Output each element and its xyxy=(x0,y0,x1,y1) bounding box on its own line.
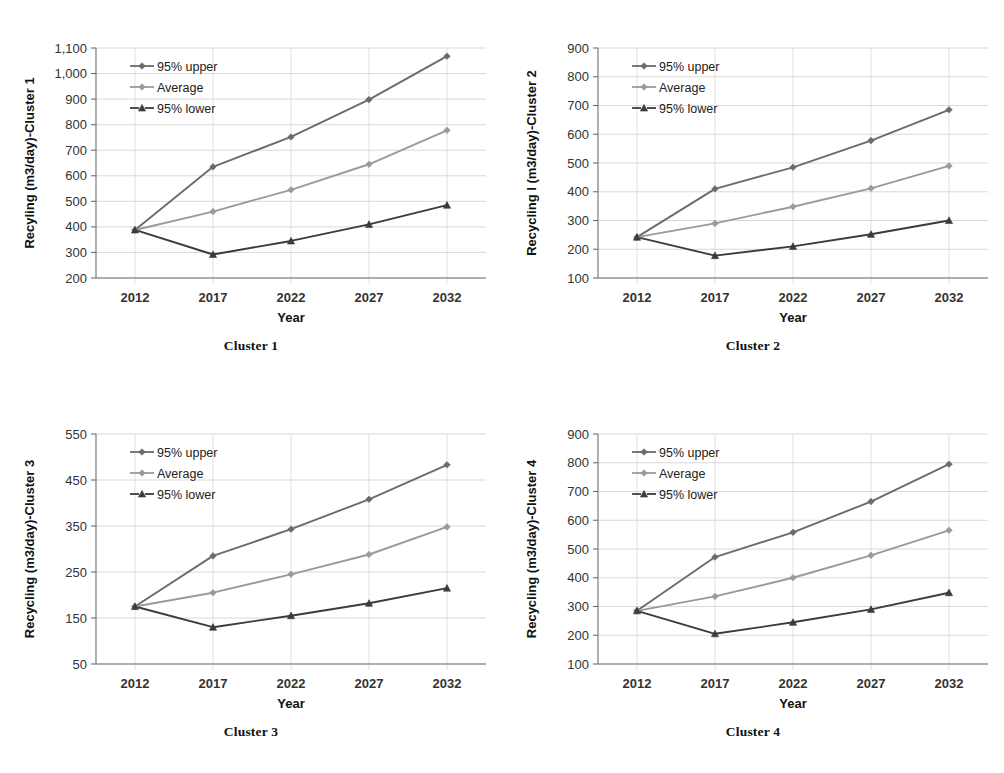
x-tick-label: 2017 xyxy=(199,290,228,305)
data-point-marker xyxy=(138,490,145,497)
data-point-marker xyxy=(366,551,373,558)
data-point-marker xyxy=(868,137,875,144)
y-tick-label: 400 xyxy=(567,184,589,199)
x-axis-title: Year xyxy=(779,310,806,325)
legend-glyph-average xyxy=(632,84,656,91)
legend-glyph-95-upper xyxy=(632,449,656,456)
y-tick-label: 600 xyxy=(65,168,87,183)
panel-caption-cluster-2: Cluster 2 xyxy=(502,338,1004,354)
data-point-marker xyxy=(210,589,217,596)
y-tick-label: 800 xyxy=(65,117,87,132)
y-tick-label: 300 xyxy=(567,213,589,228)
data-point-marker xyxy=(790,164,797,171)
panel-caption-cluster-1: Cluster 1 xyxy=(0,338,502,354)
data-point-marker xyxy=(366,496,373,503)
legend-label: Average xyxy=(659,467,705,481)
data-point-marker xyxy=(790,203,797,210)
data-point-marker xyxy=(868,185,875,192)
y-tick-label: 350 xyxy=(65,519,87,534)
chart-panel-cluster-2: 1002003004005006007008009002012201720222… xyxy=(502,0,1004,386)
y-tick-label: 550 xyxy=(65,427,87,442)
y-axis-title: Recyling (m3/day)-Cluster 1 xyxy=(22,77,37,248)
data-point-marker xyxy=(868,498,875,505)
data-point-marker xyxy=(444,462,451,469)
panel-caption-cluster-4: Cluster 4 xyxy=(502,724,1004,740)
y-tick-label: 300 xyxy=(65,245,87,260)
y-axis-title: Recycling (m3/day)-Cluster 4 xyxy=(524,459,539,638)
data-point-marker xyxy=(641,470,648,477)
data-point-marker xyxy=(946,163,953,170)
x-tick-label: 2017 xyxy=(199,676,228,691)
y-tick-label: 500 xyxy=(567,542,589,557)
data-point-marker xyxy=(868,552,875,559)
y-tick-label: 200 xyxy=(567,628,589,643)
x-tick-label: 2012 xyxy=(121,676,150,691)
x-axis-title: Year xyxy=(779,696,806,711)
y-tick-label: 200 xyxy=(65,271,87,286)
legend-label: 95% upper xyxy=(157,60,217,74)
data-point-marker xyxy=(712,220,719,227)
legend-glyph-95-lower xyxy=(130,490,154,497)
y-tick-label: 150 xyxy=(65,611,87,626)
x-tick-label: 2032 xyxy=(433,290,462,305)
y-tick-label: 250 xyxy=(65,565,87,580)
data-point-marker xyxy=(139,63,146,70)
legend-label: Average xyxy=(157,81,203,95)
x-tick-label: 2027 xyxy=(857,676,886,691)
x-tick-label: 2032 xyxy=(935,676,964,691)
legend-label: Average xyxy=(659,81,705,95)
x-tick-label: 2012 xyxy=(623,676,652,691)
y-tick-label: 500 xyxy=(65,194,87,209)
x-tick-label: 2032 xyxy=(935,290,964,305)
y-axis-title: Recycling l (m3/day)-Cluster 2 xyxy=(524,70,539,256)
x-tick-label: 2017 xyxy=(701,290,730,305)
chart-panel-cluster-1: 2003004005006007008009001,0001,100201220… xyxy=(0,0,502,386)
y-tick-label: 600 xyxy=(567,513,589,528)
legend-label: 95% lower xyxy=(659,488,717,502)
legend-glyph-average xyxy=(130,470,154,477)
legend-label: 95% upper xyxy=(157,446,217,460)
legend-glyph-95-upper xyxy=(130,63,154,70)
legend-glyph-95-lower xyxy=(130,104,154,111)
data-point-marker xyxy=(288,187,295,194)
data-point-marker xyxy=(139,470,146,477)
y-tick-label: 900 xyxy=(65,92,87,107)
figure-sheet: 2003004005006007008009001,0001,100201220… xyxy=(0,0,1004,773)
x-tick-label: 2032 xyxy=(433,676,462,691)
y-tick-label: 1,000 xyxy=(54,66,87,81)
x-tick-label: 2022 xyxy=(779,676,808,691)
y-tick-label: 900 xyxy=(567,427,589,442)
legend-glyph-95-upper xyxy=(130,449,154,456)
x-tick-label: 2017 xyxy=(701,676,730,691)
y-tick-label: 100 xyxy=(567,271,589,286)
y-tick-label: 1,100 xyxy=(54,41,87,56)
x-tick-label: 2027 xyxy=(355,290,384,305)
legend-glyph-average xyxy=(632,470,656,477)
legend-label: Average xyxy=(157,467,203,481)
data-point-marker xyxy=(641,84,648,91)
data-point-marker xyxy=(138,104,145,111)
data-point-marker xyxy=(946,461,953,468)
y-tick-label: 300 xyxy=(567,599,589,614)
chart-cluster-4: 1002003004005006007008009002012201720222… xyxy=(502,386,1004,726)
data-point-marker xyxy=(444,524,451,531)
data-point-marker xyxy=(444,127,451,134)
x-tick-label: 2012 xyxy=(121,290,150,305)
y-tick-label: 50 xyxy=(73,657,87,672)
data-point-marker xyxy=(366,161,373,168)
y-tick-label: 450 xyxy=(65,473,87,488)
y-tick-label: 700 xyxy=(567,484,589,499)
x-tick-label: 2027 xyxy=(355,676,384,691)
y-tick-label: 700 xyxy=(65,143,87,158)
legend-label: 95% upper xyxy=(659,60,719,74)
x-tick-label: 2012 xyxy=(623,290,652,305)
data-point-marker xyxy=(288,134,295,141)
y-tick-label: 200 xyxy=(567,242,589,257)
y-axis-title: Recycling (m3/day)-Cluster 3 xyxy=(22,460,37,638)
data-point-marker xyxy=(641,63,648,70)
data-point-marker xyxy=(712,593,719,600)
legend-label: 95% lower xyxy=(157,102,215,116)
y-tick-label: 800 xyxy=(567,69,589,84)
data-point-marker xyxy=(139,449,146,456)
data-point-marker xyxy=(288,526,295,533)
